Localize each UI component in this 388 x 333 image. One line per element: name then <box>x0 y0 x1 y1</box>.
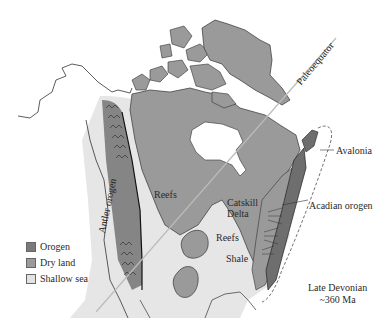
reefs-central-label: Reefs <box>216 232 239 243</box>
shallow-sea-swatch-icon <box>26 274 36 284</box>
legend-item-dry-land: Dry land <box>26 255 88 270</box>
legend-item-orogen: Orogen <box>26 239 88 254</box>
shale-label: Shale <box>226 253 248 264</box>
reefs-west-label: Reefs <box>154 189 177 200</box>
acadian-orogen-label: Acadian orogen <box>309 200 373 211</box>
catskill-label-line1: Catskill <box>227 197 258 208</box>
era-caption: Late Devonian ~360 Ma <box>308 282 367 306</box>
legend: Orogen Dry land Shallow sea <box>26 239 88 287</box>
orogen-swatch-icon <box>26 242 36 252</box>
avalonia-label: Avalonia <box>336 145 372 156</box>
era-age: ~360 Ma <box>308 294 367 306</box>
legend-label: Orogen <box>40 241 70 252</box>
legend-label: Dry land <box>40 257 75 268</box>
legend-item-shallow-sea: Shallow sea <box>26 271 88 286</box>
era-title: Late Devonian <box>308 282 367 294</box>
legend-label: Shallow sea <box>40 273 88 284</box>
dry-land-swatch-icon <box>26 258 36 268</box>
catskill-label-line2: Delta <box>227 208 249 219</box>
